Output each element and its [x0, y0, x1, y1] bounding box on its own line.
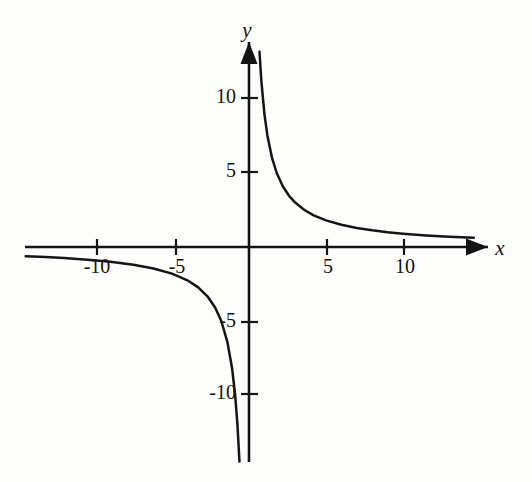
x-tick-label-neg-10: -10 [84, 255, 111, 277]
graph-figure: -10 -5 5 10 10 5 -5 -10 x y [0, 0, 532, 482]
y-tick-label-neg-10: -10 [209, 381, 236, 403]
x-axis-label: x [494, 236, 505, 260]
x-tick-label-pos-5: 5 [323, 255, 333, 277]
hyperbola-plot: -10 -5 5 10 10 5 -5 -10 x y [0, 0, 532, 482]
y-tick-label-pos-10: 10 [216, 85, 236, 107]
x-tick-label-pos-10: 10 [395, 255, 415, 277]
hyperbola-branch-quadrant-III [26, 256, 240, 461]
y-tick-label-pos-5: 5 [226, 159, 236, 181]
x-axis-arrowhead [466, 239, 488, 256]
hyperbola-branch-quadrant-I [259, 52, 473, 238]
y-axis-arrowhead [241, 42, 258, 64]
axes-group [25, 42, 488, 462]
y-axis-label: y [240, 18, 252, 42]
axis-names-group: x y [240, 18, 505, 260]
